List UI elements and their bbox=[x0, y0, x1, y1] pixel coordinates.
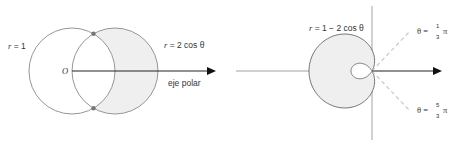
polar-diagram: r = 1 r = 2 cos θ O eje polar r = 1 − 2 … bbox=[0, 0, 458, 146]
right-figure: r = 1 − 2 cos θ θ = 1 3 π θ = 5 3 π bbox=[236, 6, 448, 140]
polar-axis-label: eje polar bbox=[168, 78, 201, 88]
polar-axis-arrowhead-icon bbox=[207, 67, 216, 75]
left-figure: r = 1 r = 2 cos θ O eje polar bbox=[8, 20, 216, 130]
svg-text:3: 3 bbox=[436, 34, 440, 40]
label-theta-5pi-over-3: θ = 5 3 π bbox=[417, 102, 448, 119]
origin-label: O bbox=[62, 66, 68, 76]
svg-text:5: 5 bbox=[436, 102, 440, 108]
ray-theta-5pi-over-3 bbox=[372, 71, 410, 111]
intersection-point-top bbox=[91, 32, 95, 36]
label-r-equals-1: r = 1 bbox=[8, 41, 26, 51]
intersection-point-bottom bbox=[91, 106, 95, 110]
label-limacon: r = 1 − 2 cos θ bbox=[309, 23, 364, 33]
svg-text:3: 3 bbox=[436, 113, 440, 119]
label-theta-pi-over-3: θ = 1 3 π bbox=[417, 23, 448, 40]
svg-text:π: π bbox=[443, 26, 448, 36]
polar-axis-right-arrowhead-icon bbox=[433, 67, 442, 75]
ray-theta-pi-over-3 bbox=[372, 31, 410, 71]
label-r-equals-2cos: r = 2 cos θ bbox=[164, 40, 205, 50]
svg-text:1: 1 bbox=[436, 23, 440, 29]
svg-text:θ =: θ = bbox=[417, 105, 428, 115]
svg-text:θ =: θ = bbox=[417, 26, 428, 36]
svg-text:π: π bbox=[443, 105, 448, 115]
